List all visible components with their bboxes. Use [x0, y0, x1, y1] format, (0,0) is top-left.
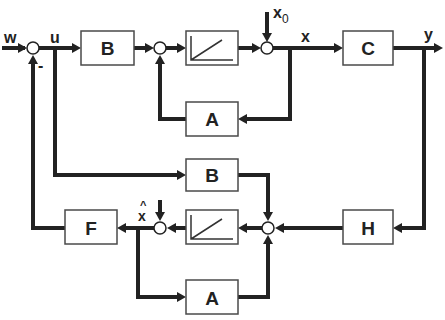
- arrow-into-observer-b: [177, 170, 186, 180]
- block-diagram: B A C B H F A w u - x0 x y x: [0, 0, 445, 320]
- block-label: B: [205, 165, 219, 186]
- arrow-into-h: [393, 223, 402, 233]
- sum-node-4: [262, 222, 274, 234]
- arrow-into-observer-integrator: [238, 223, 247, 233]
- arrow-into-sum4-right: [275, 223, 284, 233]
- arrow-y-output: [434, 43, 443, 53]
- arrow-sum1-bottom: [28, 55, 38, 64]
- arrow-x0-into-sum3: [262, 33, 272, 42]
- block-b-plant: B: [81, 31, 134, 65]
- signal-label-u: u: [50, 29, 60, 46]
- arrow-into-a-top: [238, 114, 247, 124]
- arrow-into-sum4-bottom: [263, 235, 273, 244]
- arrow-into-sum2: [145, 43, 154, 53]
- sum-node-5: [154, 222, 166, 234]
- block-f: F: [65, 210, 117, 244]
- sum-node-3: [261, 42, 273, 54]
- arrow-x0hat-into-sum5: [155, 212, 165, 221]
- block-label: C: [361, 38, 375, 59]
- wire-observer-a-to-sum4: [238, 242, 268, 297]
- sum-node-1: [27, 42, 39, 54]
- signal-label-xhat-accent: ^: [140, 199, 147, 211]
- block-a-observer: A: [186, 280, 238, 314]
- arrow-into-observer-a: [177, 292, 186, 302]
- block-c: C: [343, 31, 393, 65]
- arrow-sum2-bottom: [155, 55, 165, 64]
- arrow-into-sum5: [167, 223, 176, 233]
- arrow-into-sum1: [18, 43, 27, 53]
- signal-label-x: x: [301, 28, 310, 45]
- block-integrator-plant: [186, 31, 238, 65]
- arrow-into-b-top: [72, 43, 81, 53]
- signal-label-x0: x0: [273, 4, 289, 26]
- sum-node-2: [154, 42, 166, 54]
- wire-xhat-branch: [138, 228, 180, 297]
- block-label: H: [361, 218, 375, 239]
- wire-y-branch: [400, 48, 424, 228]
- arrow-into-integrator-top: [177, 43, 186, 53]
- arrow-into-c: [334, 43, 343, 53]
- signal-label-w: w: [3, 29, 17, 46]
- block-label: B: [101, 38, 115, 59]
- signal-label-minus: -: [38, 57, 43, 74]
- arrow-into-f: [117, 223, 126, 233]
- arrow-into-sum3: [252, 43, 261, 53]
- block-a-plant: A: [186, 102, 238, 136]
- wire-a-to-sum2: [160, 60, 186, 119]
- wire-x-branch: [245, 48, 290, 119]
- signal-label-y: y: [424, 26, 433, 43]
- wire-f-feedback: [33, 60, 65, 228]
- block-h: H: [343, 210, 393, 244]
- block-b-observer: B: [186, 159, 238, 191]
- block-integrator-observer: [186, 210, 238, 244]
- block-label: A: [205, 109, 219, 130]
- wire-observer-b-to-sum4: [238, 175, 268, 214]
- arrow-into-sum4-top: [263, 212, 273, 221]
- block-label: F: [85, 218, 97, 239]
- block-label: A: [205, 288, 219, 309]
